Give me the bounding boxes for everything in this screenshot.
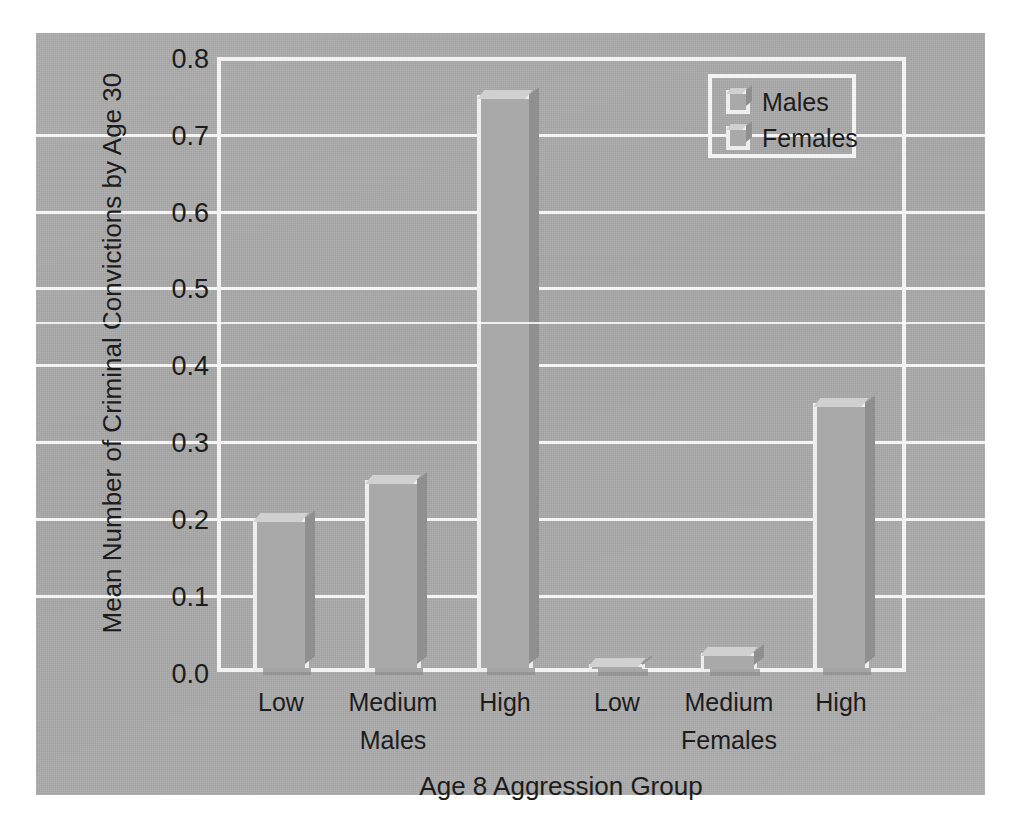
legend-label-females: Females <box>762 126 858 151</box>
y-tick-label-0.7: 0.7 <box>131 123 209 150</box>
bar-males-medium[interactable] <box>365 480 421 672</box>
legend-item-males[interactable]: Males <box>726 84 852 120</box>
bar-top-highlight <box>477 90 533 99</box>
bar-side-shadow <box>417 472 427 664</box>
bar-ground-shadow <box>487 668 535 675</box>
x-tick-label-males-low: Low <box>233 688 329 717</box>
bar-top-highlight <box>253 513 309 522</box>
y-tick-label-0.1: 0.1 <box>131 584 209 611</box>
chart-figure-panel: 0.8 0.7 0.6 0.5 0.4 0.3 0.2 0.1 0.0 Low … <box>36 33 985 795</box>
y-tick-label-0.6: 0.6 <box>131 200 209 227</box>
legend-item-females[interactable]: Females <box>726 120 852 156</box>
bar-top-highlight <box>813 398 869 407</box>
legend-swatch-females-icon <box>726 126 750 150</box>
group-label-males: Males <box>345 726 441 755</box>
bar-ground-shadow <box>598 669 648 676</box>
bar-side-shadow <box>305 510 315 664</box>
bar-ground-shadow <box>375 668 423 675</box>
y-tick-label-0.2: 0.2 <box>131 507 209 534</box>
bar-top-highlight <box>700 647 758 656</box>
x-tick-label-females-high: High <box>793 688 889 717</box>
y-tick-label-0.4: 0.4 <box>131 353 209 380</box>
bar-top-highlight <box>365 475 421 484</box>
legend-swatch-males-icon <box>726 90 750 114</box>
x-tick-label-females-medium: Medium <box>681 688 777 717</box>
bar-top-highlight <box>588 658 646 667</box>
y-tick-label-0.8: 0.8 <box>131 46 209 73</box>
bar-males-low[interactable] <box>253 518 309 672</box>
bar-males-high[interactable] <box>477 95 533 672</box>
y-axis-title: Mean Number of Criminal Convictions by A… <box>97 114 128 634</box>
group-label-females: Females <box>681 726 777 755</box>
legend-label-males: Males <box>762 90 829 115</box>
y-tick-label-0.0: 0.0 <box>131 661 209 688</box>
bar-females-low[interactable] <box>589 664 645 672</box>
y-tick-label-0.3: 0.3 <box>131 430 209 457</box>
x-tick-label-females-low: Low <box>569 688 665 717</box>
bar-ground-shadow <box>710 669 760 676</box>
x-axis-title: Age 8 Aggression Group <box>217 771 905 802</box>
y-tick-label-0.5: 0.5 <box>131 276 209 303</box>
bar-ground-shadow <box>263 668 311 675</box>
bar-side-shadow <box>529 87 539 664</box>
x-tick-label-males-high: High <box>457 688 553 717</box>
bar-females-high[interactable] <box>813 403 869 672</box>
bar-side-shadow <box>865 395 875 664</box>
plot-right-spine <box>902 57 906 672</box>
bar-females-medium[interactable] <box>701 653 757 672</box>
chart-legend: Males Females <box>708 74 856 158</box>
bar-ground-shadow <box>823 668 871 675</box>
x-tick-label-males-medium: Medium <box>345 688 441 717</box>
